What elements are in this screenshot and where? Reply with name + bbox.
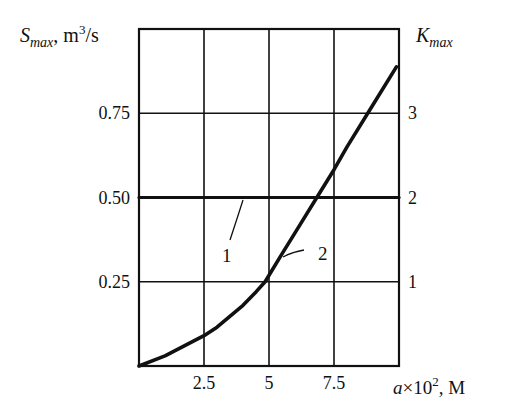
x-axis-title: a×102, M (393, 374, 465, 398)
y-left-tick-label: 0.50 (99, 188, 131, 208)
y-right-tick-label: 1 (408, 272, 417, 292)
curve2-label: 2 (318, 243, 328, 264)
tick-labels: 2.557.50.250.500.75123 (99, 103, 418, 393)
series-curve-2 (139, 67, 396, 366)
curve1-label: 1 (222, 245, 232, 266)
y-left-tick-label: 0.75 (99, 103, 131, 123)
x-tick-label: 5 (265, 373, 274, 393)
chart: 2.557.50.250.500.75123 Smax, m3/s Kmax a… (0, 0, 513, 418)
y-left-axis-title: Smax, m3/s (20, 22, 99, 50)
curve1-leader-line (230, 200, 243, 240)
y-right-tick-label: 2 (408, 188, 417, 208)
x-tick-label: 7.5 (323, 373, 346, 393)
x-tick-label: 2.5 (193, 373, 216, 393)
y-right-axis-title: Kmax (415, 24, 453, 50)
y-left-tick-label: 0.25 (99, 272, 131, 292)
curve2-leader-line (283, 250, 304, 257)
y-right-tick-label: 3 (408, 103, 417, 123)
